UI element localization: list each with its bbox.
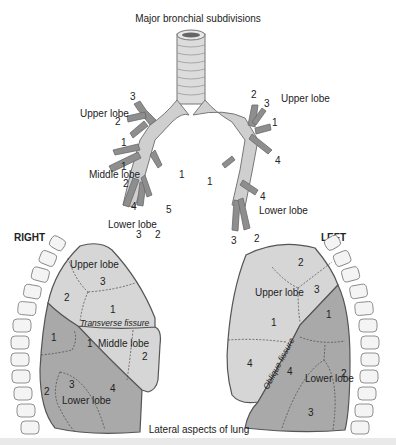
svg-text:1: 1 [121,137,127,148]
svg-text:3: 3 [314,284,320,295]
left-lower-bronchus-label: Lower lobe [259,205,308,216]
svg-text:5: 5 [166,204,172,215]
diagram-caption: Lateral aspects of lung [149,424,250,435]
svg-text:2: 2 [44,386,50,397]
svg-text:1: 1 [207,176,213,187]
svg-text:4: 4 [275,155,281,166]
svg-text:2: 2 [251,89,257,100]
svg-text:2: 2 [254,233,260,244]
diagram-title: Major bronchial subdivisions [135,13,261,24]
svg-text:1: 1 [271,317,277,328]
right-middle-lobe-label: Middle lobe [98,338,150,349]
svg-text:2: 2 [155,229,161,240]
svg-text:3: 3 [100,276,106,287]
svg-text:2: 2 [64,292,70,303]
right-upper-bronchus-label: Upper lobe [80,108,129,119]
svg-text:3: 3 [69,379,75,390]
svg-text:4: 4 [287,366,293,377]
svg-text:2: 2 [298,257,304,268]
bottom-strip [0,438,396,445]
left-lung: Upper lobe 2 3 1 4 Oblique fissure 1 4 2… [227,244,354,431]
left-upper-lobe-label: Upper lobe [255,287,304,298]
svg-text:1: 1 [87,338,93,349]
svg-text:1: 1 [179,169,185,180]
right-lung: Upper lobe 3 2 1 Transverse fissure 1 Mi… [40,244,160,434]
svg-text:3: 3 [264,98,270,109]
svg-text:3: 3 [231,235,237,246]
right-upper-lobe-label: Upper lobe [70,259,119,270]
svg-text:4: 4 [260,191,266,202]
svg-text:3: 3 [308,407,314,418]
svg-text:4: 4 [247,358,253,369]
left-lower-lobe-label: Lower lobe [305,373,354,384]
svg-text:3: 3 [130,91,136,102]
left-upper-bronchus-label: Upper lobe [281,93,330,104]
svg-text:1: 1 [326,309,332,320]
right-lower-bronchus-label: Lower lobe [108,219,157,230]
right-heading: RIGHT [14,232,45,243]
svg-text:3: 3 [136,229,142,240]
svg-text:2: 2 [142,351,148,362]
svg-text:4: 4 [110,383,116,394]
right-lower-lobe-label: Lower lobe [62,395,111,406]
svg-text:1: 1 [51,332,57,343]
right-middle-bronchus-label: Middle lobe [89,169,141,180]
svg-text:1: 1 [272,117,278,128]
svg-text:4: 4 [131,201,137,212]
transverse-fissure-label: Transverse fissure [80,318,150,328]
bronchial-diagram: Major bronchial subdivisions [0,0,396,445]
svg-text:1: 1 [110,304,116,315]
